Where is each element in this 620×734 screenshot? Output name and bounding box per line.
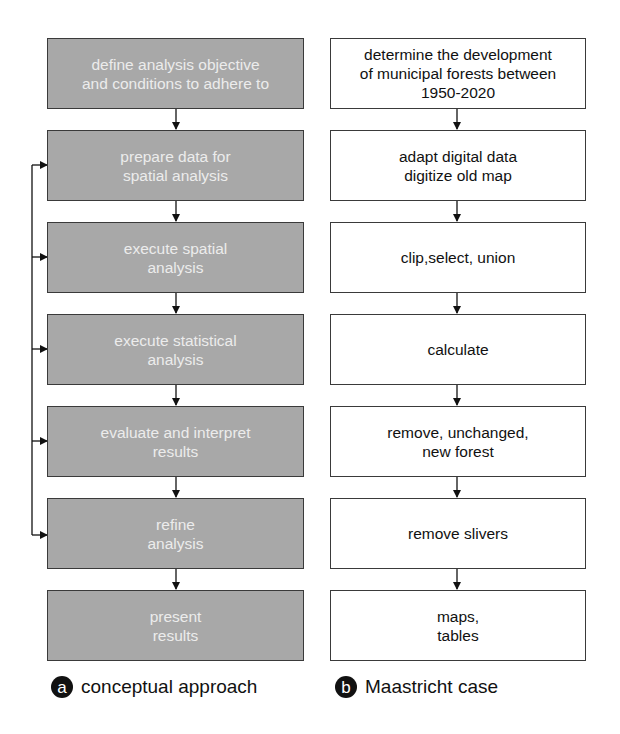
step-label: present results bbox=[150, 607, 202, 645]
caption-text: Maastricht case bbox=[365, 676, 498, 698]
case-step-adapt-data: adapt digital data digitize old map bbox=[330, 130, 586, 201]
step-label: adapt digital data digitize old map bbox=[399, 147, 517, 185]
step-label: maps, tables bbox=[437, 607, 479, 645]
step-label: define analysis objective and conditions… bbox=[82, 55, 269, 93]
step-label: execute statistical analysis bbox=[114, 331, 236, 369]
step-label: calculate bbox=[427, 340, 488, 359]
badge-b: b bbox=[335, 676, 357, 698]
step-prepare-data: prepare data for spatial analysis bbox=[47, 130, 304, 201]
step-evaluate: evaluate and interpret results bbox=[47, 406, 304, 477]
case-step-determine: determine the development of municipal f… bbox=[330, 38, 586, 109]
caption-conceptual: a conceptual approach bbox=[51, 676, 257, 698]
case-step-slivers: remove slivers bbox=[330, 498, 586, 569]
step-label: determine the development of municipal f… bbox=[360, 45, 556, 102]
case-step-calculate: calculate bbox=[330, 314, 586, 385]
step-present: present results bbox=[47, 590, 304, 661]
step-refine: refine analysis bbox=[47, 498, 304, 569]
case-step-remove: remove, unchanged, new forest bbox=[330, 406, 586, 477]
step-label: remove, unchanged, new forest bbox=[387, 423, 528, 461]
step-statistical-analysis: execute statistical analysis bbox=[47, 314, 304, 385]
case-step-clip: clip,select, union bbox=[330, 222, 586, 293]
step-label: prepare data for spatial analysis bbox=[120, 147, 230, 185]
step-label: remove slivers bbox=[408, 524, 508, 543]
step-label: refine analysis bbox=[148, 515, 204, 553]
step-label: evaluate and interpret results bbox=[101, 423, 251, 461]
case-step-maps: maps, tables bbox=[330, 590, 586, 661]
badge-a: a bbox=[51, 676, 73, 698]
caption-maastricht: b Maastricht case bbox=[335, 676, 498, 698]
step-define-objective: define analysis objective and conditions… bbox=[47, 38, 304, 109]
step-label: clip,select, union bbox=[401, 248, 516, 267]
caption-text: conceptual approach bbox=[81, 676, 257, 698]
step-spatial-analysis: execute spatial analysis bbox=[47, 222, 304, 293]
step-label: execute spatial analysis bbox=[124, 239, 227, 277]
